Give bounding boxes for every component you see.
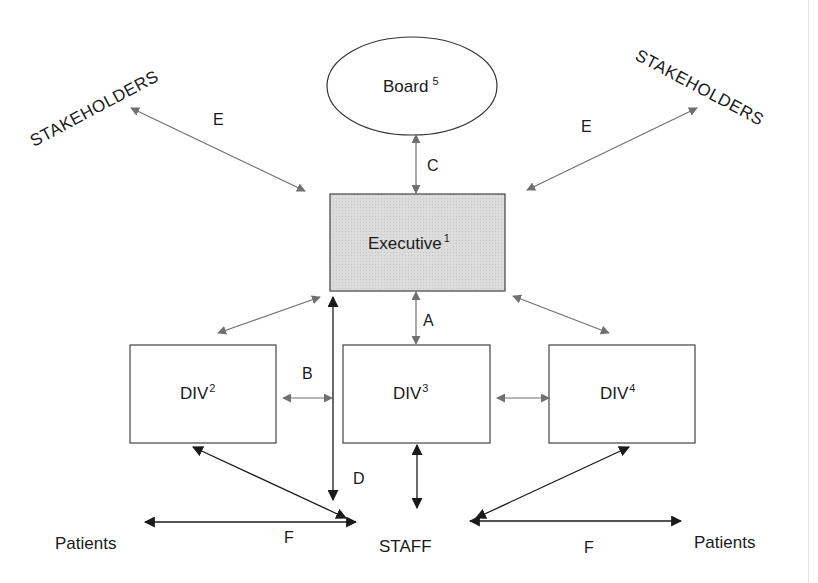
board-node: Board5 [327, 37, 497, 135]
edge-label-f-left: F [284, 529, 294, 546]
edge-label-a: A [423, 312, 434, 329]
edge-label-f-right: F [584, 539, 594, 556]
patients-right-label: Patients [694, 533, 755, 552]
stakeholders-left-label: STAKEHOLDERS [27, 67, 162, 151]
arrow-div4-staff [476, 447, 629, 518]
div2-node: DIV2 [130, 345, 276, 443]
stakeholders-right-label: STAKEHOLDERS [632, 46, 767, 130]
executive-label: Executive1 [368, 232, 450, 253]
arrow-exec-div4 [513, 296, 609, 333]
edge-label-c: C [427, 157, 439, 174]
governance-diagram: Board5 Executive1 DIV2 DIV3 DIV4 STAKEHO… [0, 0, 818, 583]
div3-node: DIV3 [343, 345, 490, 443]
patients-left-label: Patients [55, 534, 116, 553]
arrow-e-right [527, 108, 697, 190]
edge-label-b: B [302, 365, 313, 382]
executive-node: Executive1 [330, 194, 505, 291]
edge-label-e-right: E [581, 118, 592, 135]
staff-label: STAFF [379, 537, 432, 556]
arrow-exec-div2 [218, 297, 320, 333]
div4-node: DIV4 [549, 345, 695, 443]
arrow-div2-staff [193, 447, 346, 518]
edge-label-e-left: E [213, 111, 224, 128]
edge-label-d: D [353, 470, 365, 487]
